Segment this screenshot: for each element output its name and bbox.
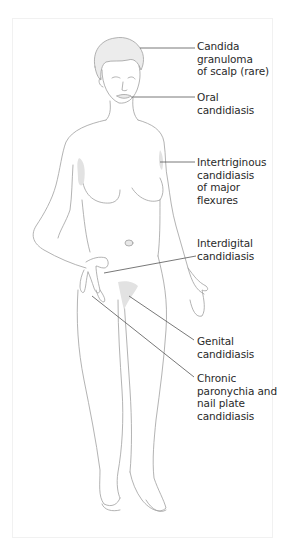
- label-oral-candidiasis: Oral candidiasis: [197, 91, 254, 116]
- axilla-shading: [77, 158, 84, 185]
- pubic-shading: [118, 281, 138, 310]
- label-chronic-paronychia: Chronic paronychia and nail plate candid…: [197, 372, 277, 422]
- leader-interdigital: [104, 256, 196, 273]
- body-illustration: [0, 0, 287, 555]
- label-candida-granuloma-scalp: Candida granuloma of scalp (rare): [197, 40, 269, 78]
- axilla-shading-right: [159, 150, 163, 170]
- label-genital-candidiasis: Genital candidiasis: [197, 335, 254, 360]
- leader-paronychia: [92, 296, 194, 377]
- label-interdigital-candidiasis: Interdigital candidiasis: [197, 237, 254, 262]
- mouth: [117, 95, 131, 99]
- label-intertriginous-candidiasis: Intertriginous candidiasis of major flex…: [197, 156, 266, 206]
